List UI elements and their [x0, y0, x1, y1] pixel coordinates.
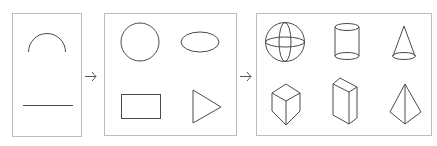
circle-shape-icon [121, 23, 159, 61]
arrow-right-icon [85, 72, 96, 81]
triangle-shape-icon [193, 90, 221, 123]
pyramid-shape-icon [390, 84, 421, 124]
stage-3d-panel [257, 14, 432, 136]
stage-2d-panel [105, 14, 237, 136]
cone-shape-icon [393, 26, 416, 60]
ellipse-shape-icon [181, 32, 219, 52]
stage-1d-box [13, 14, 82, 137]
stage-1d-panel [13, 14, 82, 137]
sphere-shape-icon [266, 23, 305, 62]
arc-shape-icon [29, 34, 66, 53]
cube-shape-icon [272, 84, 300, 125]
rectangular-prism-shape-icon [333, 78, 357, 124]
geometry-progression-diagram [0, 0, 437, 146]
cylinder-shape-icon [335, 24, 359, 60]
rectangle-shape-icon [122, 95, 161, 119]
arrow-right-icon [240, 72, 251, 81]
